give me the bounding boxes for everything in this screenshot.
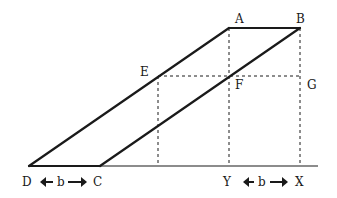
dimension-label-b-left: b [57, 175, 65, 189]
label-b: B [296, 12, 305, 26]
label-a: A [234, 12, 244, 26]
label-e: E [140, 65, 149, 79]
dimension-yx: b [243, 175, 288, 189]
arrow-right-icon [81, 177, 87, 187]
construction-lines [158, 28, 300, 166]
parallelogram-diagram: A B E F G D C Y X b b [0, 0, 337, 198]
label-d: D [22, 175, 32, 189]
parallelogram-abcd [29, 28, 300, 166]
dimension-label-b-right: b [258, 175, 266, 189]
label-c: C [93, 175, 102, 189]
arrow-right-icon [282, 177, 288, 187]
label-f: F [235, 78, 243, 92]
label-y: Y [222, 175, 232, 189]
label-g: G [307, 78, 317, 92]
label-x: X [295, 175, 304, 189]
dimension-dc: b [40, 175, 87, 189]
